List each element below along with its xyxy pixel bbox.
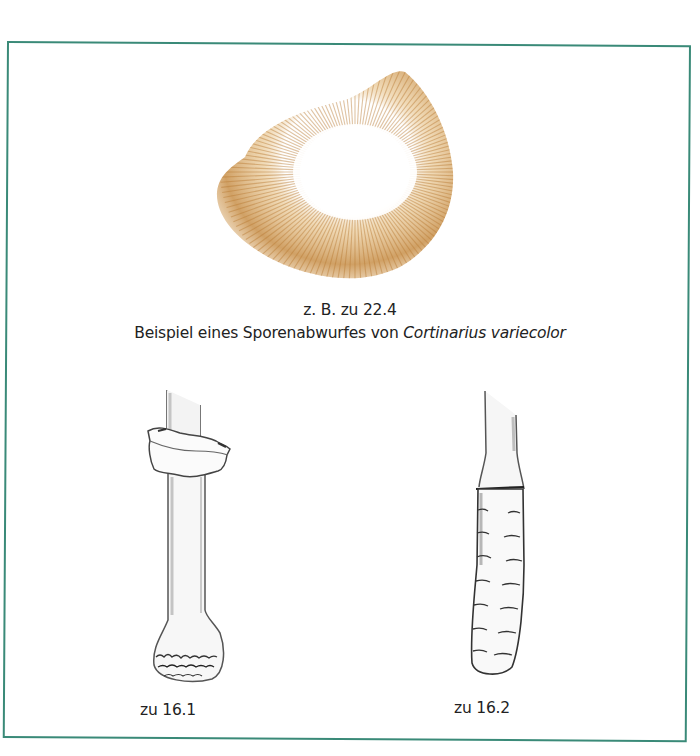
stem-with-ring-illustration (130, 385, 250, 690)
stem-1-caption: zu 16.1 (140, 699, 230, 721)
scaly-stem-illustration (460, 385, 540, 685)
species-name: Cortinarius variecolor (403, 324, 566, 342)
spore-print-description-caption: Beispiel eines Sporenabwurfes von Cortin… (0, 322, 700, 344)
spore-print-illustration (205, 62, 465, 287)
spore-print-reference-caption: z. B. zu 22.4 (0, 299, 700, 321)
caption-text: Beispiel eines Sporenabwurfes von (134, 324, 403, 342)
stem-2-caption: zu 16.2 (454, 697, 544, 719)
